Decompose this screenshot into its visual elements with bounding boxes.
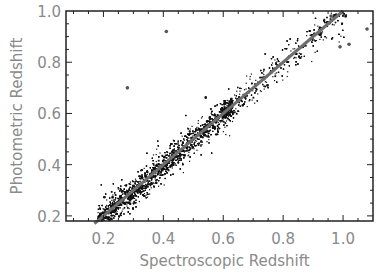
- x-tick-label: 0.8: [271, 230, 295, 248]
- y-tick-label: 0.6: [37, 105, 61, 123]
- y-tick-labels: 0.20.40.60.81.0: [37, 3, 61, 226]
- outlier-point: [329, 14, 333, 18]
- outlier-point: [165, 30, 169, 34]
- x-tick-label: 1.0: [331, 230, 355, 248]
- scatter-plot: 0.20.40.60.81.0 0.20.40.60.81.0 Spectros…: [0, 0, 381, 276]
- x-tick-label: 0.6: [211, 230, 235, 248]
- x-tick-label: 0.2: [92, 230, 116, 248]
- outlier-point: [347, 42, 351, 46]
- y-tick-label: 0.8: [37, 54, 61, 72]
- scatter-figure: 0.20.40.60.81.0 0.20.40.60.81.0 Spectros…: [0, 0, 381, 276]
- x-tick-labels: 0.20.40.60.81.0: [92, 230, 355, 248]
- y-axis-title: Photometric Redshift: [8, 38, 26, 195]
- y-tick-label: 1.0: [37, 3, 61, 21]
- x-tick-label: 0.4: [151, 230, 175, 248]
- outlier-points: [126, 14, 369, 89]
- y-tick-label: 0.2: [37, 208, 61, 226]
- y-tick-label: 0.4: [37, 157, 61, 175]
- outlier-point: [365, 27, 369, 31]
- outlier-point: [126, 86, 130, 90]
- outlier-point: [338, 45, 342, 49]
- one-to-one-line: [94, 11, 343, 224]
- x-axis-title: Spectroscopic Redshift: [139, 252, 309, 270]
